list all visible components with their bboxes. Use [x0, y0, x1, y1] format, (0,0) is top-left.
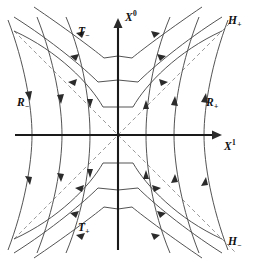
horizon-label-h-minus: H− — [228, 236, 241, 250]
arrowhead-r-plus-2-up-b — [171, 174, 178, 183]
region-label-r-plus: R+ — [206, 97, 218, 111]
spacetime-diagram: X0 X1 H+ H− R− R+ T− T+ — [0, 0, 254, 261]
region-label-t-minus: T− — [78, 26, 90, 40]
axis-x1-arrowhead — [212, 131, 222, 140]
arrowhead-t-plus-1-right — [152, 185, 161, 192]
axis-label-x1: X1 — [224, 139, 236, 152]
region-label-t-plus: T+ — [78, 222, 90, 236]
arrowhead-t-minus-2-right — [157, 54, 166, 61]
arrowhead-t-minus-1-right — [159, 79, 168, 86]
horizon-label-h-plus: H+ — [228, 15, 241, 29]
diagram-canvas — [0, 0, 254, 261]
arrowhead-t-plus-1-left — [75, 185, 84, 192]
arrowhead-r-minus-2-down — [57, 94, 64, 104]
arrowhead-t-minus-1-left — [68, 79, 77, 86]
arrowhead-r-minus-3-down-b — [25, 176, 32, 185]
arrowhead-t-plus-3-right — [151, 233, 160, 240]
axis-label-x0: X0 — [125, 10, 137, 23]
axes-group — [15, 18, 222, 250]
arrowhead-t-minus-2-left — [70, 54, 79, 61]
region-label-r-minus: R− — [17, 97, 29, 111]
axis-x0-arrowhead — [114, 18, 123, 28]
arrowhead-r-minus-1-down-b — [87, 169, 93, 178]
arrowhead-r-plus-3-up-b — [201, 177, 208, 186]
